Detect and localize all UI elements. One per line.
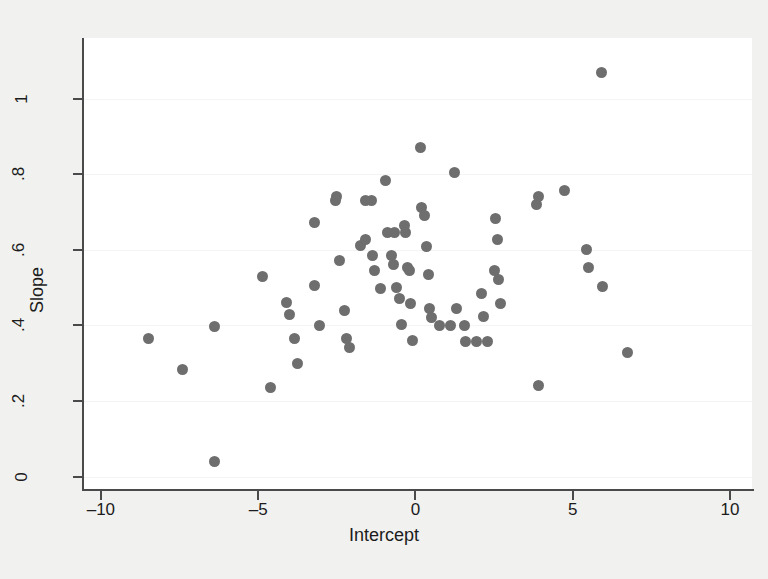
y-tick-label: 1 (17, 89, 26, 109)
data-point (284, 309, 295, 320)
x-tick-label: 10 (700, 500, 760, 520)
data-point (177, 364, 188, 375)
data-point (482, 336, 493, 347)
scatter-plot-figure: 0.2.4.6.81 –10–50510 Slope Intercept (0, 0, 768, 579)
data-point (449, 167, 460, 178)
data-point (583, 262, 594, 273)
data-point (314, 320, 325, 331)
x-tick-label: –10 (71, 500, 131, 520)
data-point (339, 305, 350, 316)
data-point (380, 175, 391, 186)
data-point (388, 259, 399, 270)
data-point (369, 265, 380, 276)
data-point (434, 320, 445, 331)
data-point (533, 191, 544, 202)
data-point (360, 234, 371, 245)
data-point (581, 244, 592, 255)
gridline (82, 174, 752, 175)
data-point (533, 380, 544, 391)
x-tick-label: –5 (228, 500, 288, 520)
data-point (396, 319, 407, 330)
data-point (209, 321, 220, 332)
data-point (476, 288, 487, 299)
data-point (309, 217, 320, 228)
y-tick-label: 0 (17, 467, 26, 487)
y-tick-label: .8 (12, 164, 26, 184)
data-point (490, 213, 501, 224)
data-point (492, 234, 503, 245)
data-point (394, 293, 405, 304)
data-point (143, 333, 154, 344)
data-point (471, 336, 482, 347)
data-point (423, 269, 434, 280)
data-point (405, 298, 416, 309)
data-point (281, 297, 292, 308)
y-tick-mark (73, 476, 82, 478)
x-tick-mark (414, 491, 416, 500)
data-point (366, 195, 377, 206)
data-point (344, 342, 355, 353)
y-tick-mark (73, 324, 82, 326)
data-point (367, 250, 378, 261)
gridline (82, 401, 752, 402)
data-point (309, 280, 320, 291)
data-point (389, 227, 400, 238)
gridline (82, 477, 752, 478)
x-tick-label: 0 (385, 500, 445, 520)
data-point (375, 283, 386, 294)
data-point (334, 255, 345, 266)
plot-inner (82, 38, 752, 490)
data-point (597, 281, 608, 292)
y-axis-title: Slope (27, 266, 48, 312)
data-point (257, 271, 268, 282)
x-axis-title: Intercept (0, 525, 768, 546)
data-point (289, 333, 300, 344)
y-axis-line (82, 38, 84, 490)
x-tick-mark (729, 491, 731, 500)
y-tick-label: .6 (12, 240, 26, 260)
plot-area (82, 38, 752, 490)
x-tick-mark (100, 491, 102, 500)
x-tick-mark (572, 491, 574, 500)
gridline (82, 99, 752, 100)
data-point (407, 335, 418, 346)
gridline (82, 250, 752, 251)
data-point (265, 382, 276, 393)
data-point (292, 358, 303, 369)
x-tick-label: 5 (543, 500, 603, 520)
gridline (82, 325, 752, 326)
y-tick-mark (73, 249, 82, 251)
data-point (460, 336, 471, 347)
data-point (559, 185, 570, 196)
data-point (493, 274, 504, 285)
data-point (622, 347, 633, 358)
data-point (400, 227, 411, 238)
y-tick-mark (73, 400, 82, 402)
y-tick-mark (73, 173, 82, 175)
x-tick-mark (257, 491, 259, 500)
data-point (445, 320, 456, 331)
y-tick-mark (73, 98, 82, 100)
data-point (419, 210, 430, 221)
y-tick-label: .4 (12, 315, 26, 335)
data-point (596, 67, 607, 78)
data-point (209, 456, 220, 467)
data-point (478, 311, 489, 322)
x-axis-line (82, 489, 754, 491)
data-point (451, 303, 462, 314)
data-point (415, 142, 426, 153)
data-point (391, 282, 402, 293)
data-point (421, 241, 432, 252)
data-point (495, 298, 506, 309)
y-tick-label: .2 (12, 391, 26, 411)
data-point (459, 320, 470, 331)
data-point (404, 265, 415, 276)
